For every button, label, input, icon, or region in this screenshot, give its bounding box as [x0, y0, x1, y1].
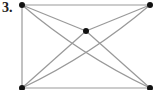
edge-TL-C	[22, 5, 86, 31]
graph-diagram	[0, 0, 159, 90]
edge-C-BR	[86, 31, 150, 88]
vertex-TL	[19, 2, 25, 8]
edge-TL-BR	[22, 5, 150, 88]
edge-C-BL	[22, 31, 86, 88]
vertex-TR	[147, 2, 153, 8]
edge-TR-BL	[22, 5, 150, 88]
vertex-C	[83, 28, 89, 34]
edge-TR-C	[86, 5, 150, 31]
